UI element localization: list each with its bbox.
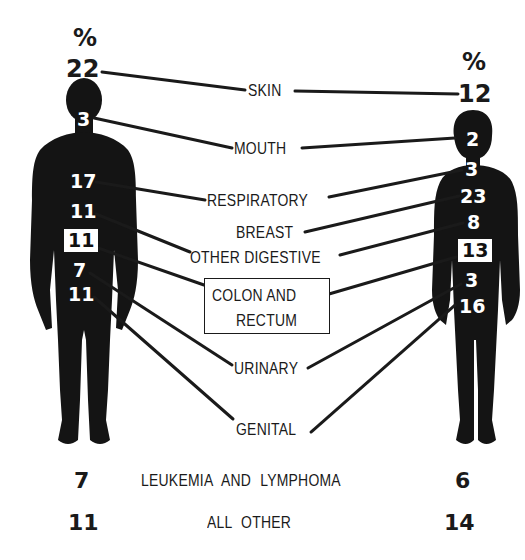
male-other-digestive-value: 11 <box>70 202 96 221</box>
male-genital-value: 11 <box>68 285 94 304</box>
label-urinary: URINARY <box>234 360 298 377</box>
label-leukemia-lymphoma: LEUKEMIA AND LYMPHOMA <box>141 472 341 489</box>
cancer-incidence-diagram: % % 22 3 17 11 11 7 11 12 2 3 23 8 13 3 … <box>0 0 525 560</box>
female-other-digestive-value: 8 <box>467 213 480 232</box>
label-colon-line1: COLON AND <box>212 287 296 304</box>
male-skin-value: 22 <box>66 57 99 81</box>
female-all-other-value: 14 <box>444 512 475 534</box>
label-other-digestive: OTHER DIGESTIVE <box>190 249 321 266</box>
label-breast: BREAST <box>236 224 293 241</box>
label-skin: SKIN <box>248 82 282 99</box>
female-colon-rectum-value: 13 <box>458 239 492 262</box>
female-leukemia-value: 6 <box>455 470 470 492</box>
label-colon-line2: RECTUM <box>236 312 297 329</box>
male-leukemia-value: 7 <box>74 470 89 492</box>
female-urinary-value: 3 <box>465 271 478 290</box>
label-genital: GENITAL <box>236 421 296 438</box>
label-all-other: ALL OTHER <box>207 514 291 531</box>
label-mouth: MOUTH <box>234 140 286 157</box>
female-skin-value: 12 <box>458 82 491 106</box>
female-genital-value: 16 <box>459 297 485 316</box>
male-percent-sign: % <box>73 26 97 50</box>
female-respiratory-value: 3 <box>465 160 478 179</box>
male-mouth-value: 3 <box>77 110 90 129</box>
male-all-other-value: 11 <box>68 512 99 534</box>
male-urinary-value: 7 <box>73 261 86 280</box>
female-percent-sign: % <box>462 50 486 74</box>
male-colon-rectum-value: 11 <box>64 229 98 252</box>
female-mouth-value: 2 <box>466 130 479 149</box>
female-breast-value: 23 <box>460 187 486 206</box>
label-respiratory: RESPIRATORY <box>207 192 308 209</box>
male-respiratory-value: 17 <box>70 172 96 191</box>
